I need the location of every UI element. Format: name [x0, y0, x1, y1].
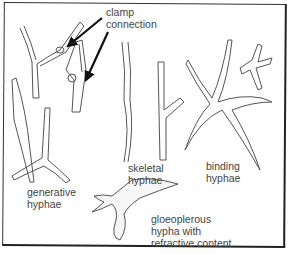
generative-hyphae-drawing [12, 78, 70, 183]
generative-hypha-clamp-drawing [20, 22, 84, 98]
skeletal-hyphae-drawing [122, 42, 184, 162]
label-gloeoplerous-hypha: gloeoplerous hypha with refractive conte… [151, 213, 232, 249]
label-clamp-connection: clamp connection [106, 6, 157, 30]
label-binding-hyphae: binding hyphae [206, 160, 240, 184]
label-generative-hyphae: generative hyphae [27, 186, 76, 210]
label-skeletal-hyphae: skeletal hyphae [128, 162, 164, 186]
binding-hyphae-drawing [185, 40, 272, 170]
clamp-hypha-drawing [66, 40, 86, 112]
clamp-arrow-2 [86, 32, 108, 80]
hyphae-illustration [0, 0, 290, 254]
